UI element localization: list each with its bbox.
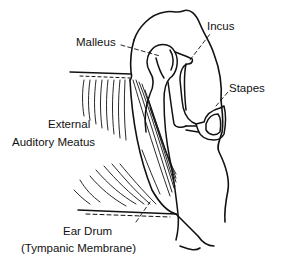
stapes-bone [186,106,226,140]
tympanic-membrane [130,80,214,246]
stapes-label: Stapes [229,83,265,95]
ear-drum-label-line1: Ear Drum [63,226,112,238]
ear-anatomy-illustration [0,0,281,264]
ear-drum-label-line2: (Tympanic Membrane) [21,243,136,255]
external-auditory-meatus-label-line2: Auditory Meatus [12,137,95,149]
incus-bone [168,52,196,127]
canal-lower-wall [78,210,176,217]
canal-upper-wall [70,72,131,78]
middle-ear-diagram: Incus Malleus Stapes External Auditory M… [0,0,281,264]
leader-lines [121,34,228,222]
cavity-outline [130,10,228,249]
incus-label: Incus [207,21,235,33]
external-auditory-meatus-label-line1: External [48,119,90,131]
malleus-label: Malleus [76,37,116,49]
